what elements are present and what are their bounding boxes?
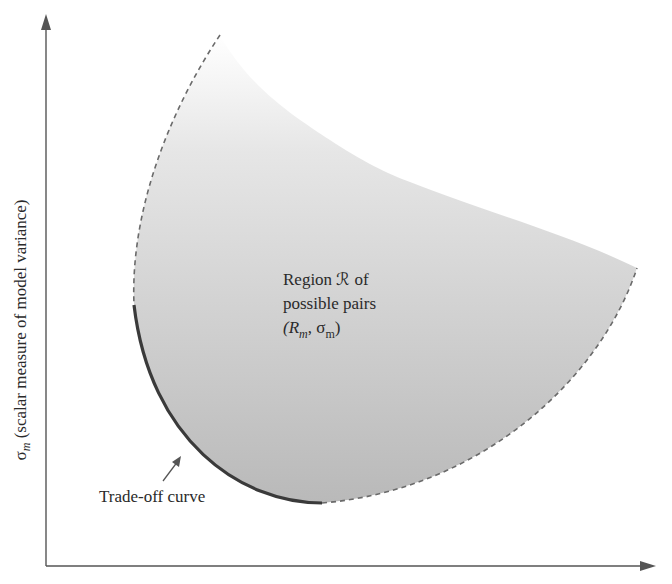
tradeoff-diagram: σm (scalar measure of model variance) Re… xyxy=(0,0,672,584)
x-axis-arrow-icon xyxy=(640,561,656,571)
annotation-arrow-icon xyxy=(172,456,181,467)
tradeoff-curve-label: Trade-off curve xyxy=(99,487,205,506)
y-axis-label: σm (scalar measure of model variance) xyxy=(11,200,33,461)
region-r-fill xyxy=(134,35,637,503)
y-axis-arrow-icon xyxy=(41,14,51,30)
